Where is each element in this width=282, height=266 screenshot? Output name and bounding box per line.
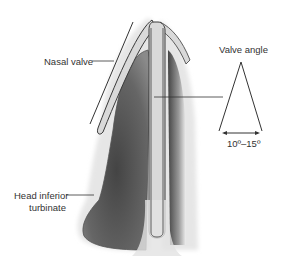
nasal-valve-diagram bbox=[0, 0, 282, 266]
arrowhead-right bbox=[255, 131, 260, 135]
valve-angle-label: Valve angle bbox=[219, 44, 268, 55]
nasal-valve-label: Nasal valve bbox=[44, 56, 93, 67]
angle-range-label: 10º–15º bbox=[227, 138, 260, 149]
arrowhead-left bbox=[222, 131, 227, 135]
turbinate-label-line2: turbinate bbox=[29, 202, 66, 213]
valve-angle-triangle bbox=[219, 62, 262, 131]
turbinate-label-line1: Head inferior bbox=[14, 190, 68, 201]
